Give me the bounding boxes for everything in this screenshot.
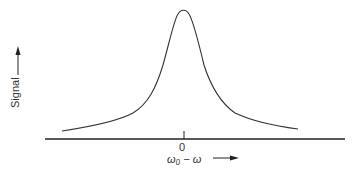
lorentzian-curve — [62, 10, 298, 131]
x-tick-zero: 0 — [179, 141, 185, 153]
y-axis-label: Signal — [9, 77, 21, 108]
resonance-chart — [0, 0, 356, 175]
x-axis-label: ω₀ − ω — [167, 153, 201, 165]
y-arrow-head-icon — [16, 46, 21, 55]
x-arrow-head-icon — [230, 156, 239, 161]
